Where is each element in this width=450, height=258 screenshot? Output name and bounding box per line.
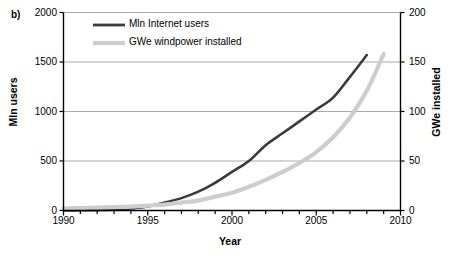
series-line-2 (64, 54, 384, 208)
y-tick-label-left: 1500 (17, 56, 57, 67)
x-tick-label: 1995 (128, 215, 168, 226)
y-tick-label-right: 100 (409, 106, 449, 117)
legend-swatches (93, 25, 125, 43)
series-line-1 (64, 55, 367, 210)
y-tick-label-right: 50 (409, 155, 449, 166)
y-tick-label-left: 2000 (17, 7, 57, 18)
gridlines (64, 13, 401, 162)
x-tick-label: 2000 (212, 215, 252, 226)
y-tick-label-right: 200 (409, 7, 449, 18)
data-series-group (64, 54, 384, 210)
x-tick-label: 2010 (381, 215, 421, 226)
y-tick-label-left: 1000 (17, 106, 57, 117)
legend-label-2: GWe windpower installed (129, 36, 242, 47)
chart-figure: b) Mln users GWe installed Year 05001000… (0, 0, 450, 258)
legend-label-1: Mln Internet users (129, 18, 209, 29)
y-tick-label-left: 500 (17, 155, 57, 166)
x-tick-label: 2005 (296, 215, 336, 226)
y-tick-label-right: 0 (409, 205, 449, 216)
y-tick-label-left: 0 (17, 205, 57, 216)
x-tick-label: 1990 (44, 215, 84, 226)
y-tick-label-right: 150 (409, 56, 449, 67)
